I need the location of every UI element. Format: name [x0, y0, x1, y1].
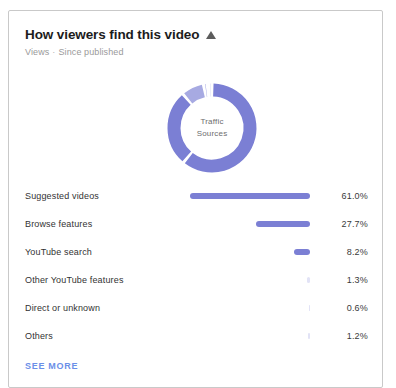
traffic-source-list: Suggested videos61.0%Browse features27.7…	[25, 187, 368, 355]
table-row[interactable]: Direct or unknown0.6%	[25, 299, 368, 327]
bar-fill	[308, 333, 310, 339]
bar-fill	[190, 193, 310, 199]
bar-track	[190, 333, 310, 339]
donut-segment[interactable]	[188, 91, 203, 98]
donut-segment[interactable]	[174, 100, 187, 156]
bar-fill	[256, 221, 310, 227]
traffic-sources-card: How viewers find this video Views·Since …	[8, 10, 383, 388]
table-row[interactable]: Browse features27.7%	[25, 215, 368, 243]
bar-track	[190, 305, 310, 311]
title-row: How viewers find this video	[25, 27, 368, 42]
bar-track	[190, 193, 310, 199]
page-title: How viewers find this video	[25, 27, 199, 42]
bar-track	[190, 221, 310, 227]
table-row[interactable]: YouTube search8.2%	[25, 243, 368, 271]
bar-track	[190, 277, 310, 283]
donut-svg	[159, 75, 265, 181]
source-label: Other YouTube features	[25, 275, 124, 285]
card-header: How viewers find this video Views·Since …	[25, 27, 368, 57]
table-row[interactable]: Others1.2%	[25, 327, 368, 355]
subtitle-period: Since published	[58, 47, 123, 57]
card-subtitle: Views·Since published	[25, 47, 368, 57]
traffic-sources-donut[interactable]: Traffic Sources	[159, 75, 265, 181]
source-label: YouTube search	[25, 247, 92, 257]
source-label: Others	[25, 331, 53, 341]
source-label: Browse features	[25, 219, 92, 229]
source-value: 27.7%	[324, 219, 368, 229]
bar-track	[190, 249, 310, 255]
see-more-link[interactable]: SEE MORE	[25, 361, 78, 371]
source-value: 8.2%	[324, 247, 368, 257]
bar-fill	[307, 277, 310, 283]
donut-segment[interactable]	[189, 90, 250, 166]
table-row[interactable]: Suggested videos61.0%	[25, 187, 368, 215]
source-value: 1.3%	[324, 275, 368, 285]
triangle-up-icon	[206, 31, 216, 39]
source-value: 0.6%	[324, 303, 368, 313]
bar-fill	[294, 249, 310, 255]
bar-fill	[309, 305, 310, 311]
source-label: Direct or unknown	[25, 303, 100, 313]
source-label: Suggested videos	[25, 191, 99, 201]
source-value: 61.0%	[324, 191, 368, 201]
source-value: 1.2%	[324, 331, 368, 341]
subtitle-metric: Views	[25, 47, 49, 57]
table-row[interactable]: Other YouTube features1.3%	[25, 271, 368, 299]
